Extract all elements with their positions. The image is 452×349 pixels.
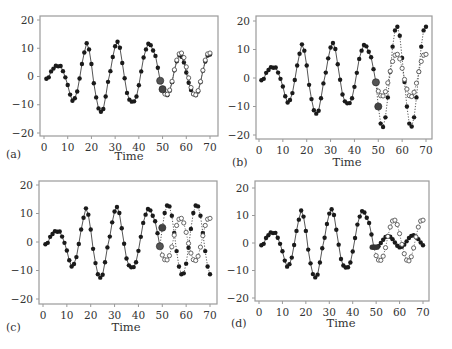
plot-frame <box>255 181 429 301</box>
y-tick-label: 0 <box>242 237 249 249</box>
panel-letter: (d) <box>231 317 247 330</box>
x-tick-label: 10 <box>276 306 289 318</box>
x-tick-label: 20 <box>299 306 312 318</box>
x-tick-label: 60 <box>393 306 406 318</box>
y-tick-label: −20 <box>227 292 249 304</box>
x-axis-label: Time <box>326 316 355 330</box>
x-tick-label: 70 <box>416 306 429 318</box>
y-tick-label: 20 <box>236 182 249 194</box>
x-tick-label: 0 <box>256 306 263 318</box>
y-tick-label: −10 <box>227 264 249 276</box>
chart-svg-d: −20−1001020010203040506070(d)Time <box>0 0 452 349</box>
x-tick-label: 50 <box>369 306 382 318</box>
chart-panel-d: −20−1001020010203040506070(d)Time <box>0 0 452 349</box>
y-tick-label: 10 <box>236 209 249 221</box>
